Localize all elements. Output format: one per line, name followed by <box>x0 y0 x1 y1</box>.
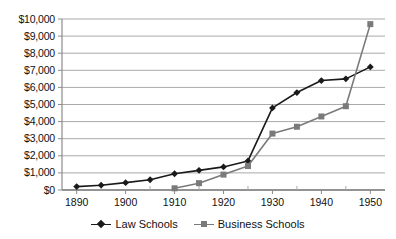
data-point-marker <box>294 124 300 130</box>
data-point-marker <box>318 113 324 119</box>
data-point-marker <box>172 185 178 191</box>
legend-item-label: Business Schools <box>218 218 305 230</box>
x-axis-tick-label: 1890 <box>65 197 88 208</box>
y-axis-tick-label: $6,000 <box>0 82 55 93</box>
y-axis-tick-label: $8,000 <box>0 48 55 59</box>
chart-canvas <box>0 0 396 239</box>
chart-legend: Law SchoolsBusiness Schools <box>0 218 396 230</box>
y-axis-tick-label: $4,000 <box>0 116 55 127</box>
x-axis-tick-label: 1940 <box>310 197 333 208</box>
y-axis-tick-label: $10,000 <box>0 14 55 25</box>
legend-marker-icon <box>194 219 214 229</box>
data-point-marker <box>343 103 349 109</box>
legend-marker-icon <box>91 219 111 229</box>
y-axis-tick-label: $5,000 <box>0 99 55 110</box>
y-axis-tick-label: $1,000 <box>0 167 55 178</box>
data-point-marker <box>367 21 373 27</box>
legend-item-business-schools[interactable]: Business Schools <box>194 218 305 230</box>
x-axis-tick-label: 1930 <box>261 197 284 208</box>
y-axis-tick-label: $7,000 <box>0 65 55 76</box>
x-axis-tick-label: 1910 <box>163 197 186 208</box>
x-axis-tick-label: 1950 <box>359 197 382 208</box>
data-point-marker <box>245 163 251 169</box>
legend-item-label: Law Schools <box>115 218 177 230</box>
x-axis-tick-label: 1900 <box>114 197 137 208</box>
data-point-marker <box>196 180 202 186</box>
y-axis-tick-label: $9,000 <box>0 31 55 42</box>
data-point-marker <box>221 172 227 178</box>
data-point-marker <box>269 131 275 137</box>
x-axis-tick-label: 1920 <box>212 197 235 208</box>
line-chart: $10,000$9,000$8,000$7,000$6,000$5,000$4,… <box>0 0 396 239</box>
legend-item-law-schools[interactable]: Law Schools <box>91 218 177 230</box>
y-axis-tick-label: $0 <box>0 185 55 196</box>
y-axis-tick-label: $3,000 <box>0 133 55 144</box>
y-axis-tick-label: $2,000 <box>0 150 55 161</box>
